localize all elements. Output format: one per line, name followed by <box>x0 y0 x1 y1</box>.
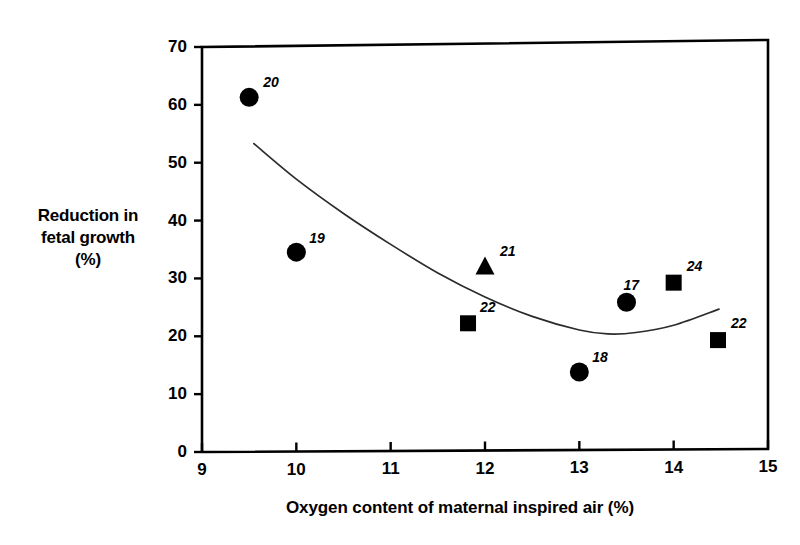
data-point-marker-square <box>666 275 682 291</box>
x-tick-label: 15 <box>748 457 788 477</box>
data-point-label: 19 <box>309 230 325 246</box>
data-point-label: 20 <box>263 74 279 90</box>
x-axis-title: Oxygen content of maternal inspired air … <box>150 498 770 518</box>
x-tick-label: 14 <box>654 458 694 478</box>
y-tick-label: 10 <box>143 384 187 404</box>
data-point-marker-circle <box>287 243 306 262</box>
y-tick-label: 0 <box>143 442 187 462</box>
data-point-label: 18 <box>592 349 608 365</box>
x-tick-label: 9 <box>182 460 222 480</box>
tick-marks <box>194 47 768 452</box>
x-tick-label: 13 <box>559 458 599 478</box>
data-point-label: 24 <box>687 258 703 274</box>
y-tick-label: 50 <box>143 153 187 173</box>
x-tick-label: 10 <box>276 460 316 480</box>
y-tick-label: 40 <box>143 211 187 231</box>
data-point-label: 22 <box>480 299 496 315</box>
data-point-label: 21 <box>500 243 516 259</box>
y-tick-label: 30 <box>143 268 187 288</box>
data-point-marker-circle <box>240 88 259 107</box>
axis-frame <box>202 40 768 452</box>
x-tick-label: 12 <box>465 459 505 479</box>
data-point-marker-circle <box>617 293 636 312</box>
data-point-label: 17 <box>624 277 640 293</box>
y-tick-label: 20 <box>143 326 187 346</box>
data-point-marker-circle <box>570 362 589 381</box>
y-tick-label: 70 <box>143 37 187 57</box>
data-point-marker-square <box>710 332 726 348</box>
data-point-marker-triangle <box>476 257 495 275</box>
y-tick-label: 60 <box>143 95 187 115</box>
data-point-label: 22 <box>731 315 747 331</box>
x-tick-label: 11 <box>371 459 411 479</box>
data-point-marker-square <box>460 315 476 331</box>
chart-figure: Reduction in fetal growth (%) Oxygen con… <box>0 0 800 545</box>
